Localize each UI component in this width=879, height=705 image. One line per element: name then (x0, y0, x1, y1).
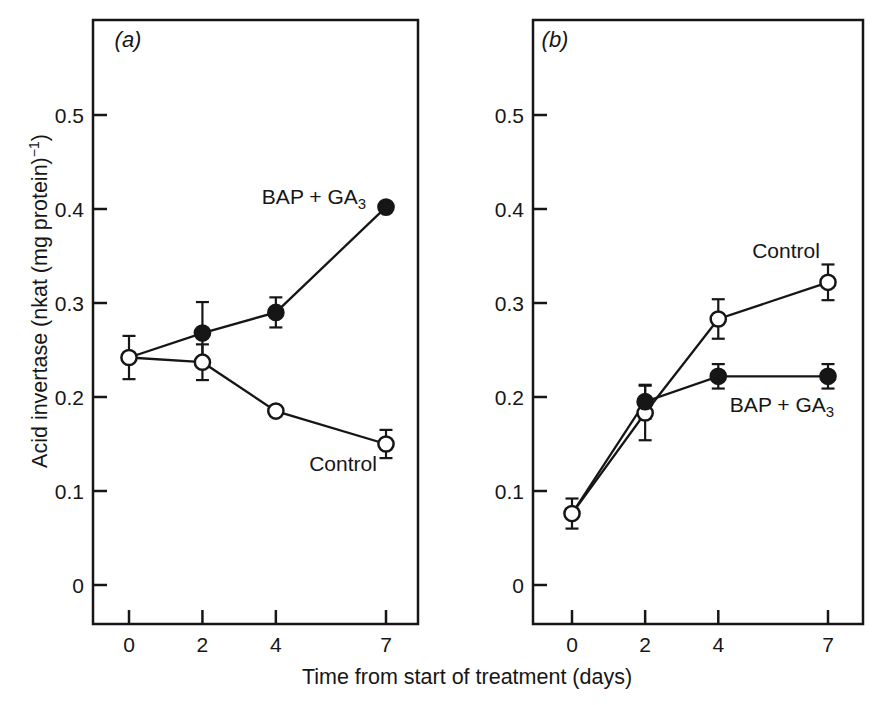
data-point-marker-open (564, 506, 579, 521)
y-tick-label: 0.3 (55, 292, 84, 315)
y-tick-label: 0.2 (55, 386, 84, 409)
data-point-marker-open (195, 355, 210, 370)
y-axis-title: Acid invertase (nkat (mg protein)−1) (27, 134, 52, 468)
chart-canvas: 00.10.20.30.40.5024700.10.20.30.40.50247 (0, 0, 879, 705)
panel-b-series-label-control: Control (752, 240, 820, 261)
two-panel-line-chart-figure: 00.10.20.30.40.5024700.10.20.30.40.50247… (0, 0, 879, 705)
data-point-marker-open (711, 311, 726, 326)
data-point-marker-filled (195, 325, 210, 340)
y-tick-label: 0.5 (55, 104, 84, 127)
data-point-marker-open (820, 275, 835, 290)
y-tick-label: 0.1 (55, 480, 84, 503)
panel-b-letter: (b) (542, 29, 569, 51)
series-line (129, 207, 386, 357)
x-tick-label: 7 (822, 633, 834, 656)
x-tick-label: 4 (270, 633, 282, 656)
series-line (129, 358, 386, 444)
y-tick-label: 0.4 (55, 198, 85, 221)
x-tick-label: 4 (712, 633, 724, 656)
series-label-text: BAP + GA (730, 393, 826, 416)
y-axis-title-superscript: −1 (26, 141, 42, 157)
y-tick-label: 0.5 (495, 104, 524, 127)
series-label-text: BAP + GA (262, 185, 358, 208)
series-label-subscript: 3 (826, 403, 834, 420)
y-tick-label: 0.2 (495, 386, 524, 409)
y-tick-label: 0.1 (495, 480, 524, 503)
x-tick-label: 7 (380, 633, 392, 656)
y-tick-label: 0.3 (495, 292, 524, 315)
x-tick-label: 0 (123, 633, 135, 656)
data-point-marker-open (378, 436, 393, 451)
data-point-marker-open (121, 350, 136, 365)
data-point-marker-filled (711, 369, 726, 384)
y-tick-label: 0.4 (495, 198, 525, 221)
data-point-marker-filled (820, 369, 835, 384)
panel-frame (533, 20, 863, 624)
data-point-marker-filled (268, 305, 283, 320)
data-point-marker-filled (638, 394, 653, 409)
x-tick-label: 0 (566, 633, 578, 656)
y-axis-title-close-paren: ) (28, 134, 52, 141)
y-tick-label: 0 (72, 574, 84, 597)
panel-frame (93, 20, 418, 624)
series-label-subscript: 3 (358, 195, 366, 212)
y-tick-label: 0 (512, 574, 524, 597)
series-label-text: Control (309, 452, 377, 475)
data-point-marker-filled (378, 200, 393, 215)
data-point-marker-open (268, 404, 283, 419)
chart-panel: 00.10.20.30.40.50247 (495, 20, 863, 656)
x-axis-title: Time from start of treatment (days) (302, 665, 632, 690)
series-label-text: Control (752, 239, 820, 262)
panel-a-series-label-control: Control (309, 453, 377, 474)
x-tick-label: 2 (639, 633, 651, 656)
y-axis-title-text: Acid invertase (nkat (mg protein) (28, 157, 52, 468)
panel-a-series-label-bap-ga3: BAP + GA3 (262, 186, 366, 207)
panel-a-letter: (a) (115, 29, 142, 51)
panel-b-series-label-bap-ga3: BAP + GA3 (730, 394, 834, 415)
chart-panel: 00.10.20.30.40.50247 (55, 20, 418, 656)
x-tick-label: 2 (197, 633, 209, 656)
